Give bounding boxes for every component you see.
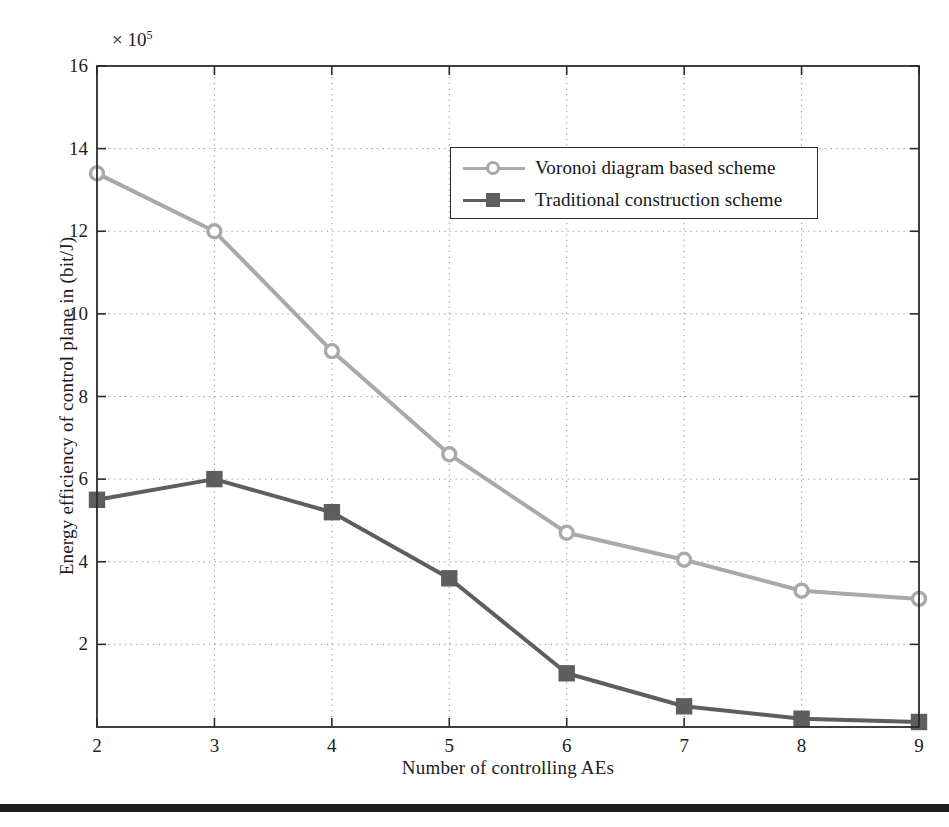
- data-point-marker: [678, 553, 691, 566]
- legend-swatch-traditional: [463, 190, 525, 210]
- y-tick-label: 14: [48, 138, 88, 160]
- data-point-marker: [325, 345, 338, 358]
- y-tick-label: 2: [48, 633, 88, 655]
- y-tick-label: 16: [48, 55, 88, 77]
- data-point-marker: [443, 572, 456, 585]
- page-edge-artifact: [0, 804, 949, 812]
- x-tick-label: 3: [194, 735, 234, 757]
- legend-label-voronoi: Voronoi diagram based scheme: [535, 157, 775, 179]
- square-marker-icon: [486, 193, 500, 207]
- y-tick-label: 4: [48, 551, 88, 573]
- data-point-marker: [443, 448, 456, 461]
- legend-swatch-voronoi: [463, 158, 525, 178]
- legend-label-traditional: Traditional construction scheme: [535, 189, 782, 211]
- x-tick-label: 8: [782, 735, 822, 757]
- data-point-marker: [325, 506, 338, 519]
- data-point-marker: [795, 584, 808, 597]
- x-tick-label: 2: [77, 735, 117, 757]
- data-point-marker: [795, 712, 808, 725]
- y-tick-label: 8: [48, 386, 88, 408]
- data-point-marker: [208, 473, 221, 486]
- circle-marker-icon: [486, 161, 500, 175]
- x-axis-title: Number of controlling AEs: [97, 757, 919, 779]
- figure-canvas: × 105 246810121416 23456789 Number of co…: [0, 0, 949, 827]
- data-point-marker: [560, 526, 573, 539]
- data-point-marker: [678, 700, 691, 713]
- plot-area: [0, 0, 949, 827]
- legend-item-traditional[interactable]: Traditional construction scheme: [451, 184, 817, 216]
- x-tick-label: 6: [547, 735, 587, 757]
- x-tick-label: 4: [312, 735, 352, 757]
- y-tick-label: 12: [48, 220, 88, 242]
- x-tick-label: 7: [664, 735, 704, 757]
- legend-item-voronoi[interactable]: Voronoi diagram based scheme: [451, 152, 817, 184]
- data-point-marker: [560, 667, 573, 680]
- x-tick-label: 9: [899, 735, 939, 757]
- y-axis-tick-labels: 246810121416: [38, 0, 88, 827]
- y-tick-label: 10: [48, 303, 88, 325]
- legend: Voronoi diagram based scheme Traditional…: [450, 147, 818, 219]
- data-point-marker: [208, 225, 221, 238]
- y-tick-label: 6: [48, 468, 88, 490]
- x-tick-label: 5: [429, 735, 469, 757]
